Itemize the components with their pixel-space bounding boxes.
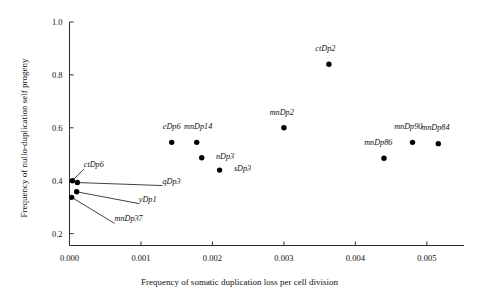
data-point-marker (199, 155, 204, 160)
data-point-label: mnDp84 (421, 123, 449, 132)
x-tick-label: 0.005 (417, 253, 436, 263)
data-point-label: nDp3 (216, 152, 234, 161)
axes-group (70, 22, 465, 246)
data-point-label: mnDp86 (364, 138, 392, 147)
data-point-label: qDp3 (162, 177, 180, 186)
data-point-marker (75, 180, 80, 185)
data-point-marker (69, 195, 74, 200)
data-point-label: ctDp2 (315, 44, 335, 53)
label-leader-line (77, 183, 162, 186)
x-tick-label: 0.004 (346, 253, 365, 263)
data-points (69, 62, 441, 200)
data-point-marker (217, 167, 222, 172)
y-tick-label: 0.6 (37, 123, 63, 133)
x-tick-label: 0.002 (203, 253, 222, 263)
x-tick-label: 0.001 (131, 253, 150, 263)
data-point-label: mnDp90 (394, 122, 422, 131)
y-tick-label: 0.4 (37, 176, 63, 186)
y-tick-label: 1.0 (37, 17, 63, 27)
data-point-marker (281, 125, 286, 130)
data-point-marker (169, 140, 174, 145)
x-axis-ticks (70, 242, 427, 246)
y-tick-label: 0.2 (37, 229, 63, 239)
data-point-marker (381, 156, 386, 161)
data-point-label: sDp3 (234, 164, 251, 173)
data-point-label: mnDp14 (184, 122, 212, 131)
x-tick-label: 0.003 (274, 253, 293, 263)
x-tick-label: 0.000 (60, 253, 79, 263)
data-point-label: mnDp37 (115, 214, 143, 223)
data-point-label: yDp1 (139, 195, 157, 204)
data-point-marker (410, 140, 415, 145)
x-axis-label: Frequency of somatic duplication loss pe… (0, 277, 479, 287)
data-point-label: ctDp6 (84, 160, 104, 169)
data-point-label: eDp6 (163, 122, 181, 131)
scatter-plot-figure: 0.0000.0010.0020.0030.0040.0050.20.40.60… (0, 0, 479, 298)
data-point-marker (436, 141, 441, 146)
y-axis-label: Frequency of nullo-duplication self prog… (19, 38, 29, 238)
label-leader-line (77, 192, 139, 204)
y-axis-ticks (70, 22, 74, 234)
label-leader-line (72, 197, 115, 223)
data-point-marker (74, 189, 79, 194)
data-point-marker (70, 178, 75, 183)
data-point-label: mnDp2 (270, 108, 294, 117)
data-point-marker (194, 140, 199, 145)
data-point-marker (326, 62, 331, 67)
y-tick-label: 0.8 (37, 70, 63, 80)
